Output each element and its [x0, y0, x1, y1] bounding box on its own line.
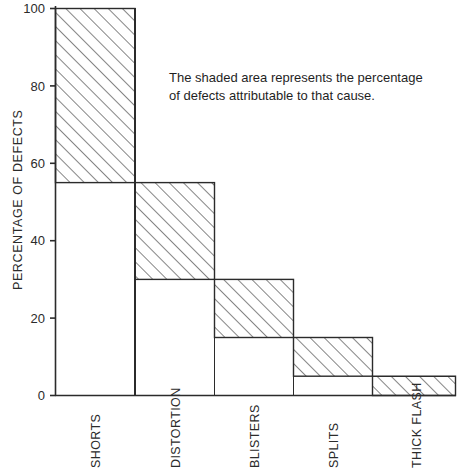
y-tick-label-40: 40 [31, 233, 45, 248]
category-label-blisters: BLISTERS [248, 404, 262, 468]
note-line-2: of defects attributable to that cause. [169, 88, 375, 103]
note-line-1: The shaded area represents the percentag… [169, 70, 423, 85]
category-label-thick-flash: THICK FLASH [410, 382, 424, 468]
y-axis-title: PERCENTAGE OF DEFECTS [11, 110, 25, 290]
bar-shaded-distortion [135, 183, 215, 280]
chart-canvas: 100 80 60 40 20 0 PERCENTAGE OF DEFECTS [0, 0, 465, 475]
y-tick-label-60: 60 [31, 156, 45, 171]
category-label-splits: SPLITS [327, 423, 341, 468]
pareto-chart: 100 80 60 40 20 0 PERCENTAGE OF DEFECTS [0, 0, 465, 475]
y-tick-label-100: 100 [23, 1, 45, 16]
bar-shaded-blisters [215, 279, 294, 337]
y-tick-label-80: 80 [31, 79, 45, 94]
y-tick-label-0: 0 [38, 388, 45, 403]
category-label-shorts: SHORTS [89, 414, 103, 468]
bar-shaded-splits [294, 338, 373, 377]
category-label-distortion: DISTORTION [169, 387, 183, 468]
y-tick-label-20: 20 [31, 311, 45, 326]
bar-shaded-shorts [56, 9, 136, 183]
